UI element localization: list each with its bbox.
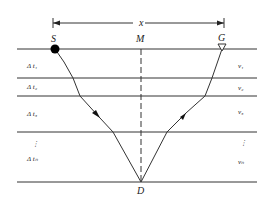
receiver-label: G [218,32,225,43]
layer-1-time-label: Δ t₁ [26,62,37,70]
arrow-up-icon [180,113,186,120]
arrow-left-icon [53,21,60,26]
midpoint-label: M [135,33,145,44]
layer-2-time-label: Δ t₂ [26,83,38,91]
layer-ellipsis-right: ⋮ [240,139,247,147]
layer-n-time-label: Δ tₙ [26,155,38,163]
receiver-triangle-icon [218,44,226,51]
layer-n-velocity-label: vₙ [238,158,244,166]
upgoing-ray [141,49,222,182]
depth-point-label: D [136,185,145,196]
layer-3-time-label: Δ t₃ [26,110,38,118]
layer-boundaries [17,49,257,182]
source-marker-icon [51,45,60,54]
seismic-raypath-diagram: x S G M D Δ t₁ Δ t₂ Δ t₃ ⋮ Δ tₙ v₁ v₂ v₃… [0,0,270,203]
offset-label: x [138,17,144,28]
source-label: S [51,33,56,44]
layer-1-velocity-label: v₁ [238,62,244,70]
layer-2-velocity-label: v₂ [238,84,244,92]
arrow-right-icon [217,21,224,26]
layer-ellipsis-left: ⋮ [32,140,39,148]
layer-3-velocity-label: v₃ [238,108,244,116]
